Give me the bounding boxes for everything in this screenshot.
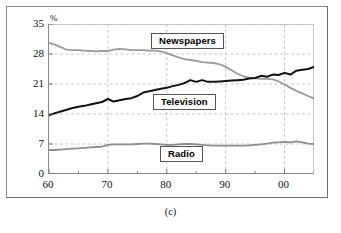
x-axis-tick-90: 90	[210, 178, 240, 190]
x-axis-tick-70: 70	[92, 178, 122, 190]
x-axis-tick-00: 00	[269, 178, 299, 190]
figure-panel: % 0714212835 6070809000 NewspapersTelevi…	[0, 0, 341, 233]
y-axis-tick-21: 21	[20, 78, 44, 89]
x-axis-tick-60: 60	[33, 178, 63, 190]
series-label-television: Television	[153, 94, 216, 110]
y-axis-tick-28: 28	[20, 48, 44, 59]
x-axis-tick-labels: 6070809000	[48, 178, 313, 194]
x-axis-tick-80: 80	[151, 178, 181, 190]
y-axis-unit-label: %	[50, 13, 58, 23]
figure-caption: (c)	[0, 206, 341, 217]
y-axis-tick-7: 7	[20, 138, 44, 149]
series-label-radio: Radio	[160, 146, 203, 162]
series-label-newspapers: Newspapers	[151, 33, 224, 49]
y-axis-tick-14: 14	[20, 108, 44, 119]
y-axis-tick-labels: 0714212835	[18, 24, 44, 174]
y-axis-tick-35: 35	[20, 18, 44, 29]
